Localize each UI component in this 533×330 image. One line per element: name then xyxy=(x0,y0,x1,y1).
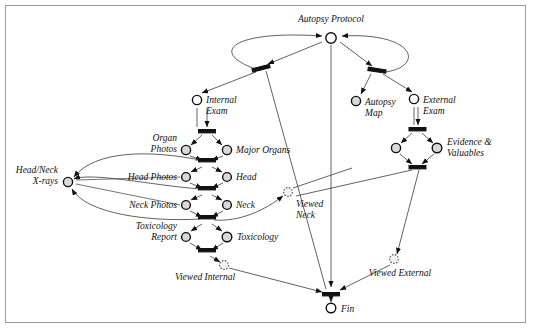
label-internal-exam-line2: Exam xyxy=(205,106,228,116)
place-organ-photos[interactable] xyxy=(181,145,190,154)
transition-neck-done[interactable] xyxy=(199,216,216,219)
transition-external-done[interactable] xyxy=(409,166,426,169)
edge-viewed-internal-to-fin xyxy=(229,268,322,292)
edge-split-to-internal-exam xyxy=(202,72,256,93)
edge-bar2-to-head-photos xyxy=(191,167,202,172)
label-fin: Fin xyxy=(340,304,354,314)
place-internal-exam[interactable] xyxy=(192,95,201,104)
label-viewed-external: Viewed External xyxy=(369,268,432,278)
edge-right-arc-to-protocol xyxy=(342,36,408,72)
label-viewed-internal: Viewed Internal xyxy=(175,272,236,282)
label-autopsy-map-line2: Map xyxy=(364,108,383,118)
label-head-photos: Head Photos xyxy=(127,172,178,182)
place-viewed-external[interactable] xyxy=(390,255,399,264)
label-neck-photos: Neck Photos xyxy=(128,200,177,210)
label-organ-photos-line2: Photos xyxy=(150,144,178,154)
edge-bar3-to-neck xyxy=(212,195,222,200)
place-toxicology-report[interactable] xyxy=(182,233,191,242)
edge-bar5-to-viewed-internal xyxy=(210,256,220,262)
edge-bar3-to-neck-photos xyxy=(191,195,202,200)
edge-bar1-to-organ-photos xyxy=(191,135,202,145)
place-toxicology[interactable] xyxy=(222,232,232,242)
place-major-organs[interactable] xyxy=(222,145,231,154)
transition-fin[interactable] xyxy=(323,293,340,296)
edge-bar1-to-major-organs xyxy=(212,135,222,145)
edge-bar2-to-head xyxy=(212,167,222,172)
label-neck: Neck xyxy=(235,200,256,210)
place-viewed-internal[interactable] xyxy=(220,261,229,270)
place-evidence-valuables[interactable] xyxy=(432,143,442,153)
transition-internal-start[interactable] xyxy=(199,130,216,133)
label-viewed-neck-line2: Neck xyxy=(295,210,316,220)
place-head-neck-xrays[interactable] xyxy=(63,177,72,186)
place-evidence-left[interactable] xyxy=(391,143,400,152)
place-fin[interactable] xyxy=(326,303,336,313)
place-external-exam[interactable] xyxy=(409,94,418,103)
petri-net-graph: Autopsy Protocol Internal Exam Autopsy M… xyxy=(0,0,533,330)
edge-split-to-autopsy-map xyxy=(361,74,371,94)
transition-external-start[interactable] xyxy=(409,128,426,131)
transition-toxicology-done[interactable] xyxy=(199,249,216,252)
edge-evidence-to-ext-done xyxy=(422,154,434,164)
edge-viewed-neck-out xyxy=(293,168,352,188)
place-autopsy-protocol[interactable] xyxy=(326,33,336,43)
label-autopsy-map-line1: Autopsy xyxy=(364,97,396,107)
edge-ext-done-to-viewed-external xyxy=(397,170,419,254)
place-head-photos[interactable] xyxy=(182,173,191,182)
edge-protocol-to-left-split xyxy=(268,42,322,64)
label-head-neck-xrays-line2: X-rays xyxy=(32,176,59,186)
place-neck[interactable] xyxy=(223,201,232,210)
label-external-exam-line1: External xyxy=(422,95,456,105)
label-toxicology: Toxicology xyxy=(237,232,279,242)
label-autopsy-protocol: Autopsy Protocol xyxy=(297,14,364,24)
label-major-organs: Major Organs xyxy=(235,145,291,155)
edge-bar4-to-tox-report xyxy=(191,224,202,231)
label-evidence-line2: Valuables xyxy=(447,148,484,158)
label-toxicology-report-line2: Report xyxy=(150,232,177,242)
label-organ-photos-line1: Organ xyxy=(153,133,178,143)
edge-ext-bar-to-left-place xyxy=(401,133,412,143)
edge-split-to-external-exam xyxy=(383,74,412,92)
transition-split-left[interactable] xyxy=(252,64,270,72)
place-viewed-neck[interactable] xyxy=(284,188,293,197)
edge-ext-bar-to-evidence xyxy=(422,133,433,143)
transition-split-right[interactable] xyxy=(368,67,386,73)
edge-left-arc-to-protocol xyxy=(232,35,322,68)
diagram-canvas: Autopsy Protocol Internal Exam Autopsy M… xyxy=(0,0,533,330)
transition-head-done[interactable] xyxy=(199,187,216,190)
labels-layer: Autopsy Protocol Internal Exam Autopsy M… xyxy=(15,14,492,314)
place-head[interactable] xyxy=(223,173,232,182)
edge-protocol-to-right-split xyxy=(340,42,372,66)
place-autopsy-map[interactable] xyxy=(351,96,360,105)
label-evidence-line1: Evidence & xyxy=(446,137,492,147)
label-viewed-neck-line1: Viewed xyxy=(296,199,324,209)
edge-left-place-to-ext-done xyxy=(400,154,412,164)
label-toxicology-report-line1: Toxicology xyxy=(136,221,178,231)
place-neck-photos[interactable] xyxy=(182,201,191,210)
label-head-neck-xrays-line1: Head/Neck xyxy=(15,165,59,175)
transition-organ-done[interactable] xyxy=(199,159,216,162)
edge-ext-done-to-viewed-neck-area xyxy=(296,170,412,196)
label-internal-exam-line1: Internal xyxy=(205,95,237,105)
label-head: Head xyxy=(235,172,257,182)
edge-bar4-to-toxicology xyxy=(212,224,222,231)
edges-layer xyxy=(72,35,434,302)
label-external-exam-line2: Exam xyxy=(422,106,445,116)
